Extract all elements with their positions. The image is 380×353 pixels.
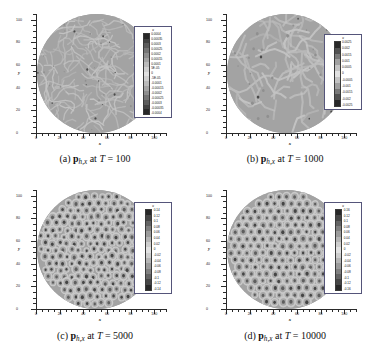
y-axis-line-b <box>226 14 227 133</box>
y-axis-tick <box>223 99 226 100</box>
colorbar-tick-label: 0 <box>342 72 353 75</box>
plot-area-a: 020406080100020406080100 x y u 0.00040.0… <box>14 10 176 138</box>
y-axis-tick <box>33 235 36 236</box>
caption-a-middle: at <box>90 153 97 164</box>
x-axis-tick-label: 20 <box>58 312 62 316</box>
y-axis-tick <box>223 82 226 83</box>
x-axis-tick <box>291 133 292 136</box>
x-axis-tick <box>267 309 268 312</box>
x-axis-tick <box>95 133 96 136</box>
colorbar-tick-label: 0.06 <box>344 231 351 234</box>
y-axis-tick <box>223 190 226 191</box>
y-axis-tick <box>221 264 226 265</box>
colorbar-tick-label: 0.002 <box>342 47 353 50</box>
y-axis-tick <box>33 224 36 225</box>
x-axis-tick-label: 80 <box>129 136 133 140</box>
colorbar-tick-label: 0 <box>154 248 161 251</box>
y-axis-tick-label: 80 <box>206 40 210 44</box>
x-axis-tick <box>95 309 96 312</box>
x-axis-tick <box>71 309 72 312</box>
y-axis-tick <box>31 133 36 134</box>
colorbar-tick-label: -0.12 <box>154 282 161 285</box>
y-axis-tick <box>221 42 226 43</box>
y-axis-tick-label: 40 <box>16 262 20 266</box>
y-axis-tick <box>223 292 226 293</box>
x-axis-tick <box>309 133 310 136</box>
y-axis-title-b: y <box>208 70 210 75</box>
colorbar-band <box>336 285 341 290</box>
colorbar-tick-label: -0.0002 <box>151 92 163 95</box>
colorbar-tick-label: -0.001 <box>342 85 353 88</box>
colorbar-legend-d: u 0.160.120.10.080.060.040.020-0.02-0.04… <box>324 202 362 294</box>
colorbar-tick-label: 0.14 <box>154 209 161 212</box>
x-axis-tick-label: 60 <box>105 312 109 316</box>
y-axis-tick-label: 20 <box>16 284 20 288</box>
colorbar-tick-label: -0.1 <box>154 277 161 280</box>
x-axis-tick <box>232 309 233 312</box>
y-axis-tick <box>33 303 36 304</box>
colorbar-tick-label: 0.00025 <box>151 48 163 51</box>
x-axis-tick <box>54 133 55 136</box>
x-axis-tick <box>119 133 120 136</box>
colorbar-tick-label: -0.16 <box>344 288 351 291</box>
colorbar-tick-label: 0.12 <box>344 215 351 218</box>
y-axis-tick <box>223 269 226 270</box>
y-axis-tick-label: 0 <box>206 307 208 311</box>
colorbar-tick-label: -0.02 <box>344 254 351 257</box>
colorbar-legend-b: u 0.00250.0020.00150.0010.00050-0.0005-0… <box>324 34 362 110</box>
y-axis-tick-label: 40 <box>206 86 210 90</box>
x-axis-tick <box>279 309 280 312</box>
x-axis-title-d: x <box>289 317 291 322</box>
y-axis-tick-label: 100 <box>206 194 212 198</box>
y-axis-tick <box>223 207 226 208</box>
colorbar-tick-label: 0.0025 <box>342 41 353 44</box>
colorbar-tick-label: -0.06 <box>344 265 351 268</box>
y-axis-tick <box>31 88 36 89</box>
x-axis-tick <box>356 309 357 312</box>
caption-c-var: T <box>97 330 103 341</box>
x-axis-tick-label: 80 <box>129 312 133 316</box>
y-axis-tick <box>223 213 226 214</box>
x-axis-tick <box>71 133 72 136</box>
colorbar-labels-b: 0.00250.0020.00150.0010.00050-0.0005-0.0… <box>342 41 353 107</box>
x-axis-tick <box>350 133 351 136</box>
x-axis-tick <box>142 309 143 312</box>
x-axis-tick-label: 100 <box>151 136 157 140</box>
x-axis-tick <box>54 309 55 312</box>
x-axis-tick <box>42 309 43 312</box>
y-axis-tick <box>33 247 36 248</box>
colorbar-tick-label: 0.0005 <box>342 66 353 69</box>
y-axis-tick <box>223 201 226 202</box>
x-axis-tick <box>142 133 143 136</box>
colorbar-tick-label: -0.04 <box>154 260 161 263</box>
plot-area-b: 020406080100020406080100 x y u 0.00250.0… <box>204 10 366 138</box>
y-axis-tick <box>33 48 36 49</box>
y-axis-tick <box>33 127 36 128</box>
y-axis-tick <box>33 258 36 259</box>
y-axis-tick <box>223 252 226 253</box>
colorbar-tick-label: -0.1 <box>344 277 351 280</box>
x-axis-tick <box>125 309 126 312</box>
x-axis-tick-label: 60 <box>295 136 299 140</box>
y-axis-tick <box>33 54 36 55</box>
y-axis-tick <box>223 224 226 225</box>
colorbar-band <box>335 100 340 106</box>
x-axis-tick-label: 40 <box>271 312 275 316</box>
y-axis-tick-label: 40 <box>206 262 210 266</box>
x-axis-tick <box>279 133 280 136</box>
colorbar-tick-label: -0.0004 <box>151 112 163 115</box>
y-axis-tick <box>223 235 226 236</box>
x-axis-tick <box>303 133 304 136</box>
x-axis-tick <box>119 309 120 312</box>
y-axis-tick <box>33 230 36 231</box>
x-axis-tick <box>77 133 78 136</box>
y-axis-tick-label: 20 <box>16 108 20 112</box>
y-axis-tick-label: 20 <box>206 108 210 112</box>
x-axis-tick-label: 40 <box>81 312 85 316</box>
x-axis-tick <box>256 133 257 136</box>
y-axis-tick-label: 40 <box>16 86 20 90</box>
y-axis-line-a <box>36 14 37 133</box>
y-axis-tick <box>33 275 36 276</box>
x-axis-tick <box>160 133 161 136</box>
x-axis-tick <box>338 133 339 136</box>
